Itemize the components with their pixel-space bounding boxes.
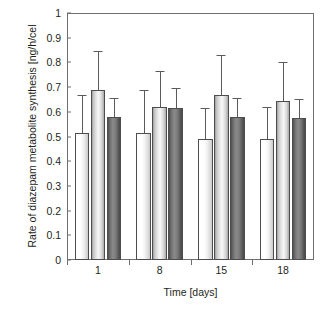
y-tick-mark xyxy=(67,37,71,38)
y-tick-mark xyxy=(67,210,71,211)
y-tick-label: 0.2 xyxy=(0,205,67,217)
y-tick-label: 0.3 xyxy=(0,180,67,192)
y-tick-label: 0.1 xyxy=(0,229,67,241)
chart-figure: Rate of diazepam metabolite synthesis [n… xyxy=(0,0,326,311)
y-tick-mark xyxy=(67,111,71,112)
error-bar-cap xyxy=(263,107,272,108)
error-bar-stem xyxy=(114,98,115,117)
bar xyxy=(152,107,167,260)
bar xyxy=(136,133,151,260)
error-bar-cap xyxy=(295,99,304,100)
error-bar-stem xyxy=(267,107,268,139)
y-tick-mark xyxy=(67,185,71,186)
y-tick-label: 0.7 xyxy=(0,81,67,93)
error-bar-cap xyxy=(93,51,102,52)
error-bar-cap xyxy=(171,88,180,89)
y-tick-mark xyxy=(67,13,71,14)
y-tick-label: 0.4 xyxy=(0,155,67,167)
y-tick-mark xyxy=(67,161,71,162)
y-tick-mark xyxy=(67,136,71,137)
bar xyxy=(260,139,275,260)
x-tick-mark xyxy=(191,260,192,265)
error-bar-stem xyxy=(283,62,284,100)
error-bar-stem xyxy=(221,55,222,95)
bar xyxy=(91,90,106,260)
y-tick-mark xyxy=(67,62,71,63)
error-bar-cap xyxy=(139,90,148,91)
y-tick-label: 0.6 xyxy=(0,106,67,118)
x-tick-mark xyxy=(129,260,130,265)
error-bar-stem xyxy=(299,99,300,118)
x-tick-label: 8 xyxy=(157,264,163,276)
error-bar-cap xyxy=(233,98,242,99)
bar xyxy=(107,117,122,260)
y-tick-label: 0.8 xyxy=(0,56,67,68)
error-bar-cap xyxy=(217,55,226,56)
y-tick-mark xyxy=(67,235,71,236)
error-bar-stem xyxy=(237,98,238,117)
bar xyxy=(198,139,213,260)
x-tick-label: 18 xyxy=(277,264,289,276)
error-bar-cap xyxy=(155,71,164,72)
error-bar-stem xyxy=(98,51,99,89)
bar xyxy=(276,101,291,260)
error-bar-cap xyxy=(77,95,86,96)
error-bar-stem xyxy=(160,71,161,107)
error-bar-cap xyxy=(201,108,210,109)
bar xyxy=(292,118,307,260)
x-tick-label: 1 xyxy=(95,264,101,276)
y-tick-label: 0 xyxy=(0,254,67,266)
bar xyxy=(75,133,90,260)
y-tick-label: 0.5 xyxy=(0,131,67,143)
error-bar-stem xyxy=(205,108,206,139)
y-tick-label: 1 xyxy=(0,7,67,19)
y-tick-mark xyxy=(67,87,71,88)
error-bar-stem xyxy=(144,90,145,133)
bar xyxy=(214,95,229,260)
y-tick-label: 0.9 xyxy=(0,32,67,44)
error-bar-cap xyxy=(109,98,118,99)
x-axis-title: Time [days] xyxy=(67,286,314,298)
x-tick-mark xyxy=(67,260,68,265)
error-bar-cap xyxy=(279,62,288,63)
x-tick-label: 15 xyxy=(216,264,228,276)
bar xyxy=(168,108,183,260)
x-tick-mark xyxy=(252,260,253,265)
bar xyxy=(230,117,245,260)
error-bar-stem xyxy=(82,95,83,133)
error-bar-stem xyxy=(176,88,177,108)
